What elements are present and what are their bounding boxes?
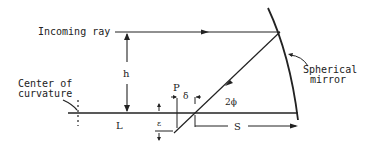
h-arrow-up	[124, 33, 130, 40]
spherical-mirror	[268, 8, 298, 120]
delta-left-arrowhead	[173, 95, 177, 99]
h-arrow-down	[124, 105, 130, 112]
P-label: P	[173, 82, 180, 93]
mirror-leader-arrowhead	[288, 53, 293, 57]
S-label: S	[234, 121, 241, 132]
center-leader	[63, 100, 77, 110]
delta-right-arrowhead	[196, 95, 200, 99]
s-arrowhead	[290, 124, 298, 129]
L-label: L	[116, 120, 123, 131]
incoming-ray-label: Incoming ray	[38, 26, 110, 37]
two-phi-label: 2ϕ	[225, 97, 237, 107]
incoming-ray-arrowhead	[201, 30, 209, 35]
mirror-label-line2: mirror	[310, 74, 346, 85]
epsilon-bottom-arrowhead	[157, 137, 161, 141]
optics-diagram: Incoming ray Center of curvature Spheric…	[0, 0, 379, 147]
h-label: h	[123, 68, 130, 79]
reflected-ray	[174, 32, 280, 133]
delta-label: δ	[183, 91, 188, 101]
epsilon-top-arrowhead	[157, 103, 161, 107]
epsilon-label: ε	[157, 119, 161, 128]
center-label-line2: curvature	[18, 88, 72, 99]
